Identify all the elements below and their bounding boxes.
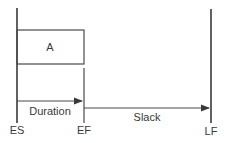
es-label: ES bbox=[10, 124, 25, 136]
ef-label: EF bbox=[77, 124, 91, 136]
activity-label: A bbox=[46, 41, 54, 53]
lf-label: LF bbox=[205, 125, 218, 137]
duration-label: Duration bbox=[29, 105, 71, 117]
slack-label: Slack bbox=[134, 111, 161, 123]
slack-diagram: A Duration Slack ES EF LF bbox=[0, 0, 232, 143]
